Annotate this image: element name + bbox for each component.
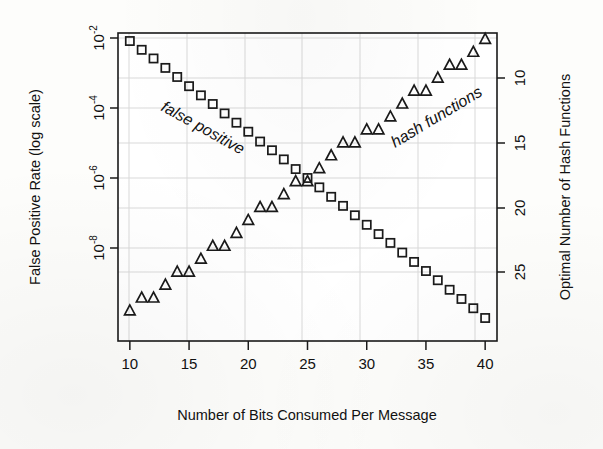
- y-right-tick-label: 10: [511, 70, 528, 87]
- x-axis-title: Number of Bits Consumed Per Message: [177, 407, 437, 423]
- y-right-ticks: [497, 78, 505, 272]
- x-axis-tick-label: 25: [299, 355, 316, 372]
- x-axis-tick-label: 35: [418, 355, 435, 372]
- y-right-tick-labels: 10152025: [511, 70, 528, 281]
- y-right-tick-label: 20: [511, 200, 528, 217]
- y-right-tick-label: 15: [511, 135, 528, 152]
- x-axis-tick-label: 10: [122, 355, 139, 372]
- y-left-tick-label: 10-6: [88, 165, 107, 191]
- x-axis-ticks: [130, 341, 485, 350]
- x-axis-tick-label: 40: [477, 355, 494, 372]
- y-left-tick-label: 10-8: [88, 235, 107, 261]
- plot-background: [118, 33, 497, 341]
- x-axis-tick-label: 30: [358, 355, 375, 372]
- y-right-tick-label: 25: [511, 264, 528, 281]
- x-axis-tick-label: 20: [240, 355, 257, 372]
- x-axis-tick-label: 15: [181, 355, 198, 372]
- y-right-axis-title: Optimal Number of Hash Functions: [557, 74, 573, 300]
- x-axis-tick-labels: 10152025303540: [122, 355, 494, 372]
- y-left-ticks: [110, 38, 118, 248]
- bloom-filter-chart: 10-210-410-610-8 10152025 10152025303540…: [0, 0, 603, 449]
- y-left-tick-labels: 10-210-410-610-8: [88, 25, 107, 261]
- y-left-tick-label: 10-2: [88, 25, 107, 51]
- figure-container: 10-210-410-610-8 10152025 10152025303540…: [0, 0, 603, 449]
- y-left-tick-label: 10-4: [88, 95, 107, 121]
- y-left-axis-title: False Positive Rate (log scale): [27, 89, 43, 285]
